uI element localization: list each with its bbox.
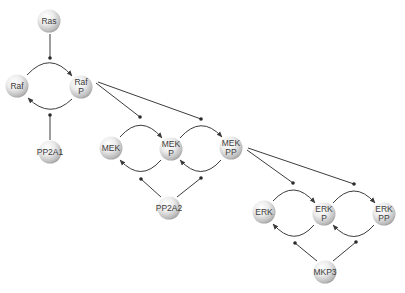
node-mkp3: MKP3 (313, 261, 336, 284)
edge-pp2a2-mek2-catalysis (177, 178, 201, 197)
edge-dot (352, 182, 356, 186)
node-erk: ERK (253, 201, 276, 224)
arc-raf-to-rafp (27, 63, 72, 76)
node-raf-p: Raf P (70, 76, 93, 99)
edge-rafp-mek2-catalysis (98, 82, 201, 119)
node-mek: MEK (100, 137, 123, 160)
node-label-phospho: PP (378, 213, 390, 223)
edge-dot (293, 241, 297, 245)
node-label: ERK (255, 207, 273, 217)
node-label: Raf (10, 81, 24, 91)
node-erk-p: ERK P (313, 203, 336, 226)
edge-dot (138, 115, 142, 119)
arc-erk-to-erkp (273, 190, 315, 203)
node-label: PP2A2 (156, 203, 183, 213)
node-label: Ras (41, 16, 56, 26)
edge-rafp-mek1-catalysis (96, 83, 140, 117)
node-mek-pp: MEK PP (220, 137, 243, 160)
edge-dot (291, 181, 295, 185)
arc-mekp-to-mekpp (180, 126, 222, 138)
node-pp2a2: PP2A2 (156, 197, 183, 220)
node-label: MEK (102, 143, 121, 153)
node-label-phospho: P (78, 86, 84, 96)
arc-erkp-to-erk (273, 224, 314, 236)
node-label: PP2A1 (37, 147, 64, 157)
node-pp2a1: PP2A1 (37, 141, 64, 164)
arc-mekp-to-mek (120, 160, 161, 172)
edge-dot (139, 177, 143, 181)
edge-dot (199, 176, 203, 180)
arc-erkpp-to-erkp (333, 225, 374, 237)
arc-mek-to-mekp (120, 125, 162, 138)
node-label: MKP3 (313, 267, 336, 277)
edge-mkp3-erk2-catalysis (333, 242, 356, 261)
arc-erkp-to-erkpp (333, 191, 375, 203)
edge-dot (199, 117, 203, 121)
edge-pp2a2-mek1-catalysis (141, 179, 161, 197)
node-erk-pp: ERK PP (373, 203, 396, 226)
node-mek-p: MEK P (160, 138, 183, 161)
arc-mekpp-to-mekp (180, 160, 221, 172)
edge-mkp3-erk1-catalysis (295, 243, 317, 261)
node-label-phospho: P (321, 213, 327, 223)
mapk-pathway-diagram: Ras Raf Raf P PP2A1 MEK MEK P MEK PP PP2… (0, 0, 405, 293)
node-label-phospho: PP (225, 147, 237, 157)
edge-dot (48, 56, 52, 60)
edge-dot (354, 240, 358, 244)
catalysis-edges (48, 34, 358, 261)
arc-rafp-to-raf (28, 98, 72, 109)
node-ras: Ras (38, 10, 61, 33)
node-label-phospho: P (168, 148, 174, 158)
edge-mekpp-erk2-catalysis (248, 148, 354, 184)
node-raf: Raf (6, 75, 29, 98)
edge-dot (48, 113, 52, 117)
